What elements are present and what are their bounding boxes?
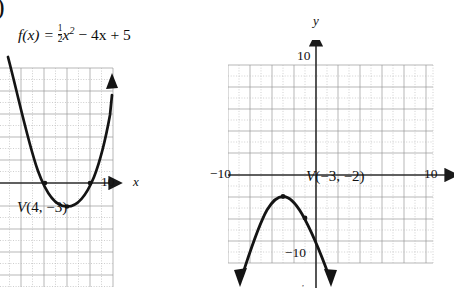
right-vertex-label: V(−3, −2) [306, 168, 365, 185]
right-grid-dotted [228, 65, 433, 263]
exercise-paren-fragment: ) [0, 0, 5, 20]
right-curve-arrowhead-left [234, 268, 247, 287]
right-curve-point-2 [303, 216, 308, 221]
right-curve-arrowhead-right [324, 269, 337, 287]
right-vertex-coords: (−3, −2) [315, 168, 364, 184]
right-vertex-letter: V [306, 168, 315, 184]
left-x-axis-label: x [133, 175, 139, 188]
left-root-point-1 [43, 181, 48, 186]
right-graph-svg [228, 40, 454, 290]
right-graph-container [228, 40, 454, 290]
list-bullet-fragment [0, 28, 12, 42]
right-x-tick-10: 10 [424, 166, 438, 182]
left-graph-svg [0, 55, 150, 290]
right-x-tick-minus10: −10 [210, 166, 231, 182]
right-y-tick-minus10: −10 [285, 245, 306, 261]
equation-rest: − 4x + 5 [75, 26, 131, 43]
left-curve-arrowhead [106, 73, 118, 89]
left-vertex-coords: (4, −3) [26, 199, 67, 215]
bottom-cropped-fragment: ⋅ [300, 280, 304, 290]
left-root-point-2 [88, 181, 93, 186]
right-grid-solid [228, 65, 433, 263]
left-graph-container [0, 55, 150, 290]
figure-canvas: ) f(x) = 12x2 − 4x + 5 [0, 0, 454, 290]
left-x-tick-10: 10 [101, 174, 115, 190]
equation-prefix: f(x) = [18, 26, 58, 43]
right-y-tick-10: 10 [297, 48, 311, 64]
right-vertex-point [281, 194, 286, 199]
left-vertex-label: V(4, −3) [17, 199, 67, 216]
right-y-axis-label: y [313, 14, 319, 27]
left-vertex-letter: V [17, 199, 26, 215]
left-grid-dotted [0, 68, 113, 287]
left-grid-solid [0, 68, 113, 287]
equation-left-graph: f(x) = 12x2 − 4x + 5 [18, 24, 131, 44]
